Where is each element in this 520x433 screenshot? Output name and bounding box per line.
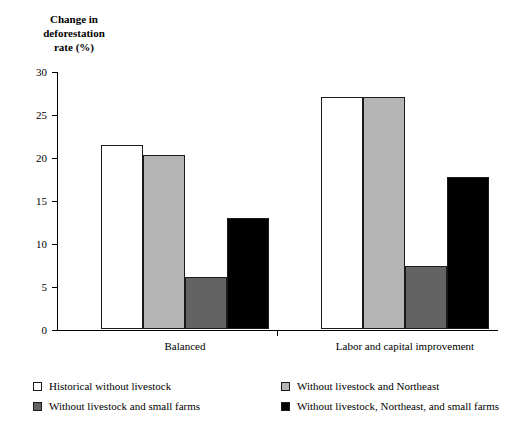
legend-item: Without livestock and Northeast bbox=[281, 380, 503, 392]
y-axis-title: Change in deforestation rate (%) bbox=[14, 12, 134, 54]
legend-label: Historical without livestock bbox=[49, 380, 171, 392]
bar bbox=[185, 277, 227, 329]
bar bbox=[101, 145, 143, 329]
legend-item: Without livestock, Northeast, and small … bbox=[281, 400, 503, 412]
y-axis-tick bbox=[52, 330, 58, 331]
y-axis-tick-label: 10 bbox=[19, 238, 47, 250]
y-axis-tick-label: 15 bbox=[19, 195, 47, 207]
y-axis-tick-label: 0 bbox=[19, 324, 47, 336]
y-axis-tick-label: 5 bbox=[19, 281, 47, 293]
bar bbox=[363, 97, 405, 329]
x-axis-category-label: Balanced bbox=[165, 340, 206, 352]
legend-swatch-icon bbox=[33, 402, 42, 411]
legend-swatch-icon bbox=[33, 382, 42, 391]
legend-swatch-icon bbox=[281, 382, 290, 391]
y-axis-tick-label: 20 bbox=[19, 152, 47, 164]
bar bbox=[227, 218, 269, 329]
y-axis-tick bbox=[52, 115, 58, 116]
bar bbox=[447, 177, 489, 329]
x-axis-group-tick bbox=[277, 330, 278, 336]
legend-label: Without livestock and small farms bbox=[49, 400, 200, 412]
y-axis-tick bbox=[52, 72, 58, 73]
plot-area: 051015202530 bbox=[57, 72, 497, 330]
legend-item: Without livestock and small farms bbox=[33, 400, 281, 412]
legend-swatch-icon bbox=[281, 402, 290, 411]
y-axis-tick-label: 30 bbox=[19, 66, 47, 78]
y-axis-tick-label: 25 bbox=[19, 109, 47, 121]
y-axis-tick bbox=[52, 201, 58, 202]
legend-label: Without livestock, Northeast, and small … bbox=[297, 400, 499, 412]
bar-chart: Change in deforestation rate (%) 0510152… bbox=[0, 0, 520, 433]
chart-legend: Historical without livestockWithout live… bbox=[33, 376, 503, 416]
x-axis-category-label: Labor and capital improvement bbox=[336, 340, 474, 352]
bar bbox=[143, 155, 185, 329]
bar bbox=[405, 266, 447, 329]
y-axis-tick bbox=[52, 287, 58, 288]
bar bbox=[321, 97, 363, 329]
y-axis-tick bbox=[52, 158, 58, 159]
legend-item: Historical without livestock bbox=[33, 380, 281, 392]
legend-label: Without livestock and Northeast bbox=[297, 380, 439, 392]
y-axis-tick bbox=[52, 244, 58, 245]
